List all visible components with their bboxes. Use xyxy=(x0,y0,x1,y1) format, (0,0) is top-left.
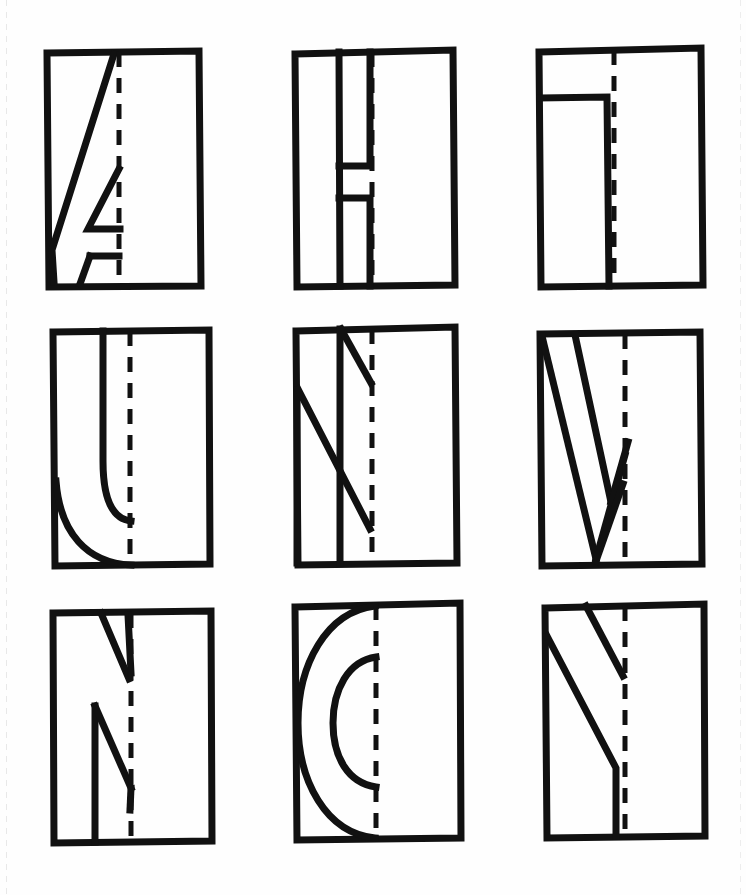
glyph-stroke-y-arm-outer xyxy=(547,636,616,836)
glyph-stroke-a-outer-diagonal xyxy=(52,54,114,282)
glyph-stroke-h-upper-inner xyxy=(339,52,370,166)
letter-grid xyxy=(0,0,746,895)
glyph-stroke-h-lower-inner xyxy=(339,198,370,286)
letter-cell-n-upper xyxy=(289,319,467,569)
glyph-stroke-n-diagonal xyxy=(95,706,131,788)
frame-outline xyxy=(47,51,201,287)
letter-cell-a xyxy=(40,44,212,296)
glyph-stroke-n-top-stub-left xyxy=(101,613,129,679)
frame-outline xyxy=(539,48,703,287)
letter-cell-y xyxy=(538,596,714,846)
letter-cell-o xyxy=(288,595,470,847)
letter-cell-t xyxy=(532,40,710,296)
glyph-stroke-w-first-right xyxy=(575,335,611,502)
frame-outline xyxy=(295,50,455,287)
glyph-stroke-t-bar-and-stem xyxy=(540,97,609,286)
glyph-stroke-n-diagonal2 xyxy=(341,329,371,383)
glyph-stroke-a-leg-inner xyxy=(80,256,90,284)
glyph-stroke-u-outer xyxy=(56,481,131,565)
glyph-stroke-a-inner-apex xyxy=(88,169,120,229)
letter-cell-h xyxy=(288,42,466,296)
glyph-stroke-o-inner xyxy=(333,657,376,787)
glyph-stroke-n-diagonal xyxy=(298,389,370,529)
glyph-stroke-u-inner xyxy=(103,331,131,521)
letter-cell-w xyxy=(533,324,711,570)
frame-outline xyxy=(540,332,702,566)
drawing-sheet xyxy=(0,0,746,895)
letter-cell-n-lower xyxy=(45,603,223,847)
frame-outline xyxy=(296,327,457,565)
letter-cell-u xyxy=(45,321,221,569)
glyph-stroke-y-arm-inner xyxy=(586,606,623,676)
glyph-stroke-w-first-left xyxy=(542,336,596,559)
